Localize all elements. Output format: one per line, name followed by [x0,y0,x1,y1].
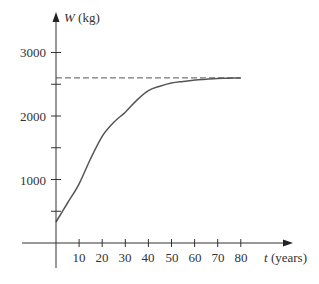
x-tick-label: 40 [142,250,155,265]
x-tick-label: 10 [73,250,86,265]
y-tick-label-1000: 1000 [20,173,46,188]
x-axis-unit: (years) [268,250,307,265]
x-tick-label: 20 [96,250,109,265]
y-tick-label-3000: 3000 [20,45,46,60]
growth-curve [56,78,241,222]
x-tick-labels: 10 20 30 40 50 60 70 80 [73,250,248,265]
x-tick-label: 30 [119,250,132,265]
x-axis-label: t (years) [264,250,307,265]
y-axis-label: W (kg) [64,10,100,25]
y-tick-label-2000: 2000 [20,109,46,124]
x-tick-label: 70 [212,250,225,265]
x-axis-arrow-icon [283,240,293,247]
axes [22,12,293,268]
chart-svg: 3000 2000 1000 10 20 30 40 50 60 70 80 W… [0,0,319,284]
y-axis-unit: (kg) [75,10,100,25]
x-tick-label: 60 [189,250,202,265]
x-tick-label: 50 [166,250,179,265]
x-tick-label: 80 [235,250,248,265]
chart: 3000 2000 1000 10 20 30 40 50 60 70 80 W… [0,0,319,284]
y-axis-arrow-icon [53,12,60,22]
plot-area [56,78,241,222]
